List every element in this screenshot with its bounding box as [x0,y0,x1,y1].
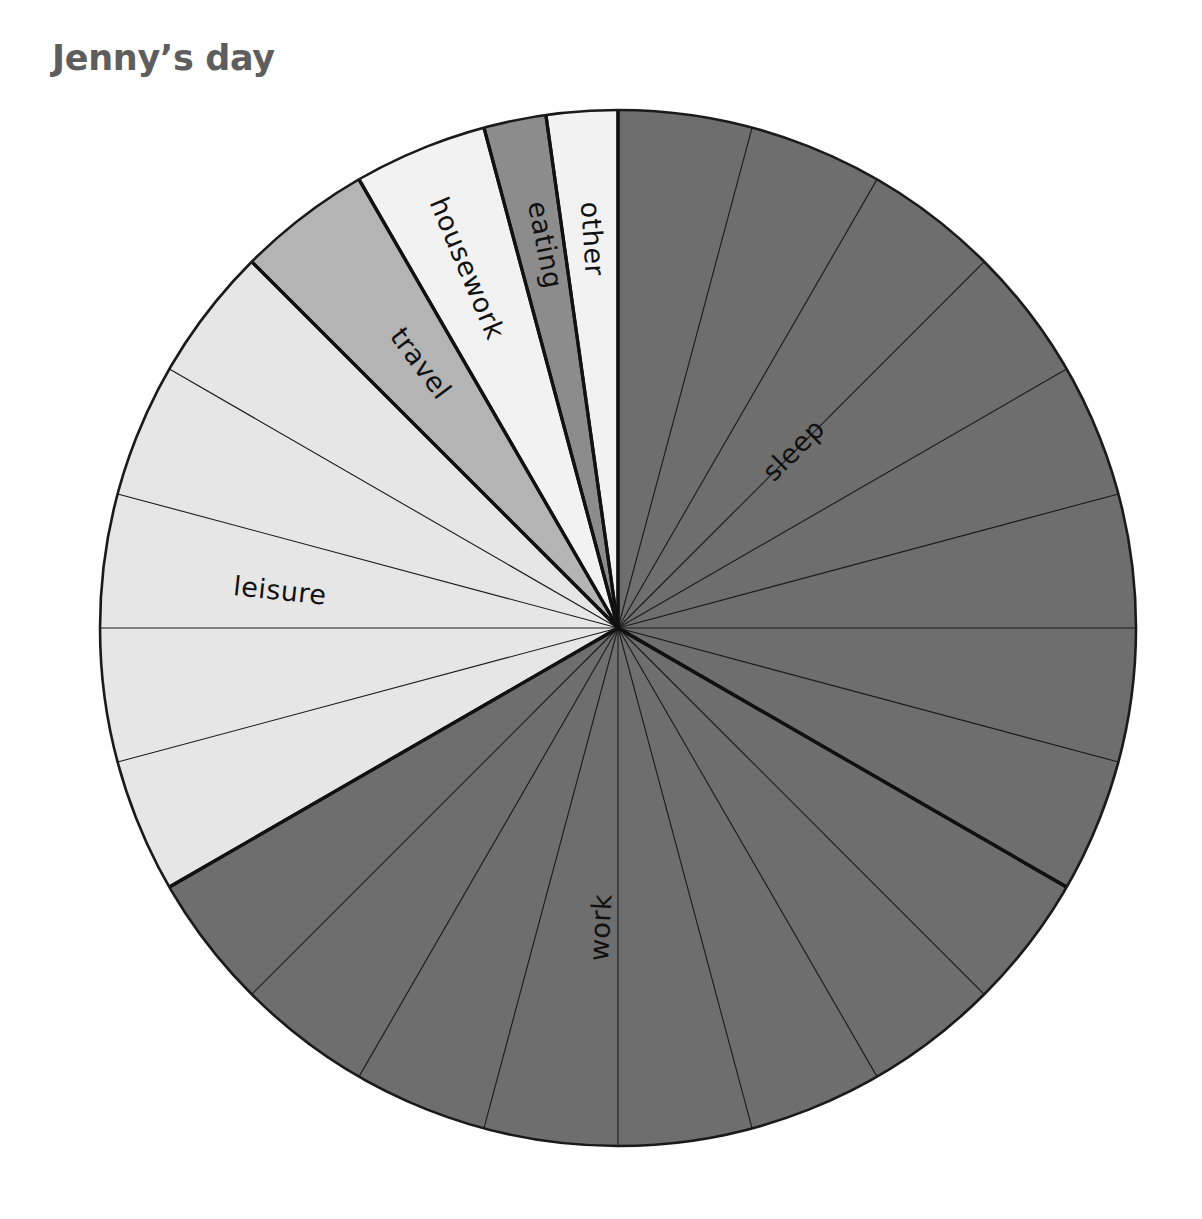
slice-label-other: other [575,201,611,278]
pie-chart-svg: sleepworkleisuretravelhouseworkeatingoth… [0,0,1202,1219]
pie-chart: sleepworkleisuretravelhouseworkeatingoth… [0,0,1202,1219]
slice-label-work: work [583,893,617,962]
